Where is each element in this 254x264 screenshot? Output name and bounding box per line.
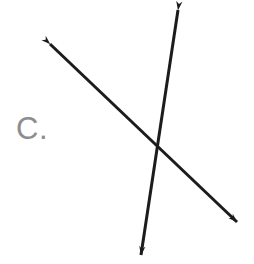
intersecting-lines-figure: C.	[0, 0, 254, 264]
choice-label: C.	[16, 113, 48, 144]
